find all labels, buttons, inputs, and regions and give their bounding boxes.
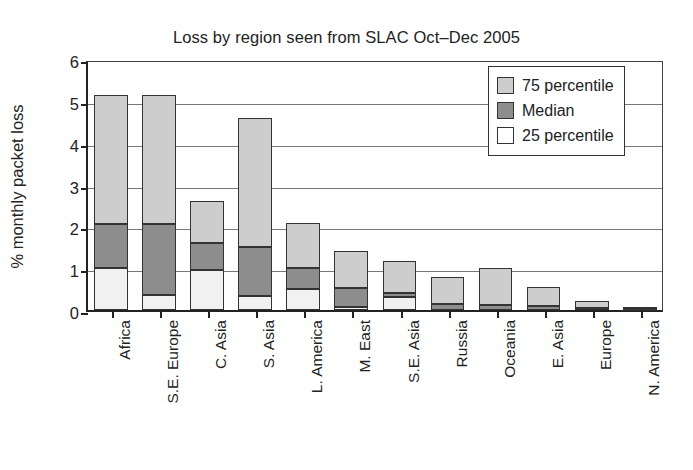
segment-median	[286, 268, 320, 289]
segment-25-percentile	[142, 295, 176, 310]
x-axis-tick	[545, 310, 547, 318]
bar-n-america	[623, 307, 657, 310]
x-axis-tick	[208, 310, 210, 318]
x-axis-label-m-east: M. East	[356, 320, 374, 373]
segment-median	[623, 309, 657, 311]
segment-75-percentile	[334, 251, 368, 289]
y-axis-tick-label: 6	[70, 54, 79, 71]
x-axis-label-oceania: Oceania	[501, 320, 519, 378]
y-axis-title: % monthly packet loss	[6, 61, 28, 312]
y-axis-tick	[81, 62, 88, 64]
legend-item: 75 percentile	[497, 73, 614, 98]
chart-legend: 75 percentileMedian25 percentile	[488, 66, 625, 156]
y-axis-tick	[81, 229, 88, 231]
x-axis-label-s-e-europe: S.E. Europe	[164, 320, 182, 404]
bar-s-e-asia	[383, 261, 417, 310]
y-axis-tick	[81, 146, 88, 148]
x-axis-label-russia: Russia	[453, 320, 471, 367]
segment-25-percentile	[190, 270, 224, 310]
segment-median	[479, 305, 513, 310]
legend-item-label: 25 percentile	[522, 127, 614, 145]
bar-europe	[575, 301, 609, 310]
x-axis-tick	[304, 310, 306, 318]
x-axis-label-e-asia: E. Asia	[549, 320, 567, 368]
x-axis-tick	[256, 310, 258, 318]
y-axis-tick-label: 2	[70, 221, 79, 238]
segment-median	[238, 247, 272, 296]
bar-m-east	[334, 251, 368, 310]
y-axis-tick-label: 3	[70, 179, 79, 196]
segment-75-percentile	[575, 301, 609, 308]
legend-swatch-light-gray	[497, 77, 514, 94]
x-axis-label-n-america: N. America	[645, 320, 663, 396]
segment-median	[142, 224, 176, 295]
legend-swatch-dark-gray	[497, 102, 514, 119]
y-axis-tick	[81, 313, 88, 315]
y-axis-tick	[81, 104, 88, 106]
segment-75-percentile	[94, 95, 128, 225]
segment-75-percentile	[527, 287, 561, 306]
segment-median	[334, 288, 368, 306]
x-axis-label-africa: Africa	[116, 320, 134, 360]
segment-75-percentile	[383, 261, 417, 293]
bar-c-asia	[190, 201, 224, 310]
bar-e-asia	[527, 287, 561, 310]
packet-loss-bar-chart: Loss by region seen from SLAC Oct–Dec 20…	[0, 0, 693, 470]
segment-median	[190, 243, 224, 270]
y-axis-tick-label: 4	[70, 137, 79, 154]
bar-oceania	[479, 268, 513, 310]
segment-median	[527, 306, 561, 310]
x-axis-tick	[593, 310, 595, 318]
x-axis-tick	[449, 310, 451, 318]
x-axis-tick	[160, 310, 162, 318]
x-axis-label-s-asia: S. Asia	[260, 320, 278, 368]
x-axis-label-europe: Europe	[597, 320, 615, 370]
x-axis-tick	[112, 310, 114, 318]
x-axis-tick	[641, 310, 643, 318]
x-axis-labels: AfricaS.E. EuropeC. AsiaS. AsiaL. Americ…	[86, 320, 663, 470]
segment-25-percentile	[94, 268, 128, 310]
segment-75-percentile	[190, 201, 224, 243]
bar-s-e-europe	[142, 95, 176, 310]
bar-s-asia	[238, 118, 272, 310]
segment-25-percentile	[238, 296, 272, 310]
legend-item: 25 percentile	[497, 123, 614, 148]
segment-median	[575, 308, 609, 310]
segment-75-percentile	[142, 95, 176, 225]
x-axis-tick	[352, 310, 354, 318]
segment-25-percentile	[334, 307, 368, 310]
legend-item-label: Median	[522, 102, 574, 120]
chart-title: Loss by region seen from SLAC Oct–Dec 20…	[0, 28, 693, 47]
x-axis-label-l-america: L. America	[308, 320, 326, 393]
segment-25-percentile	[383, 297, 417, 310]
y-axis-tick-label: 1	[70, 263, 79, 280]
y-axis-tick	[81, 188, 88, 190]
x-axis-tick	[401, 310, 403, 318]
bar-russia	[431, 277, 465, 310]
x-axis-label-s-e-asia: S.E. Asia	[405, 320, 423, 383]
legend-item-label: 75 percentile	[522, 77, 614, 95]
segment-75-percentile	[479, 268, 513, 305]
segment-75-percentile	[286, 223, 320, 268]
y-axis-tick-label: 5	[70, 96, 79, 113]
y-axis-tick-label: 0	[70, 305, 79, 322]
segment-75-percentile	[238, 118, 272, 248]
x-axis-label-c-asia: C. Asia	[212, 320, 230, 369]
y-axis-tick	[81, 271, 88, 273]
segment-median	[94, 224, 128, 268]
bar-africa	[94, 95, 128, 310]
bar-l-america	[286, 223, 320, 310]
segment-median	[431, 304, 465, 310]
legend-swatch-white	[497, 127, 514, 144]
y-axis-title-text: % monthly packet loss	[8, 104, 27, 268]
segment-75-percentile	[431, 277, 465, 304]
legend-item: Median	[497, 98, 614, 123]
x-axis-tick	[497, 310, 499, 318]
segment-25-percentile	[286, 289, 320, 310]
